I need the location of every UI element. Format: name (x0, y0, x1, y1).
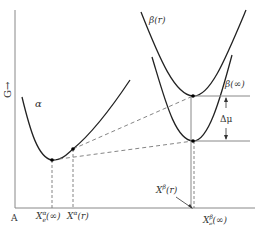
arrowhead-down-icon (224, 135, 228, 140)
x-beta-e-inf-label: Xβe(∞) (202, 213, 227, 225)
x-alpha-e-inf-label: Xαe(∞) (35, 209, 61, 223)
origin-label: A (10, 213, 18, 223)
x-alpha-r-label: Xα(r) (66, 209, 89, 221)
delta-mu-label: Δμ (220, 114, 232, 124)
arrowhead-up-icon (224, 97, 228, 102)
point-alpha-r (71, 147, 75, 151)
tangent-line-r (73, 96, 193, 149)
point-beta-r (191, 94, 195, 98)
x-beta-r-label: Xβ(r) (155, 183, 178, 195)
beta-inf-label: β(∞) (224, 79, 245, 89)
y-axis-label: G→ (2, 81, 13, 98)
point-beta-inf (191, 139, 195, 143)
free-energy-diagram: G→ A α β(r) β(∞) Δμ Xαe(∞) Xα(r) Xβ(r) X… (0, 0, 255, 225)
point-alpha-inf (50, 158, 54, 162)
beta-r-label: β(r) (148, 15, 166, 25)
alpha-label: α (35, 98, 42, 109)
